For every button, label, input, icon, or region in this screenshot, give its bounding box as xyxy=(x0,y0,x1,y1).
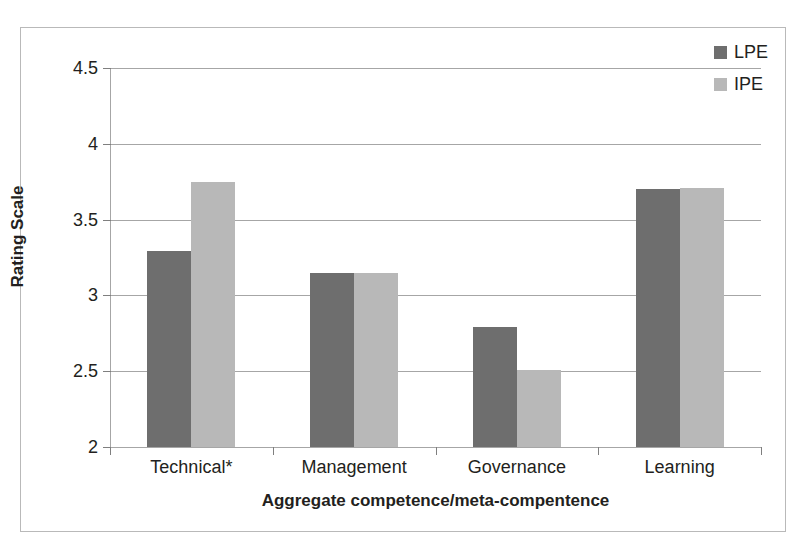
x-tick-label-technical: Technical* xyxy=(110,458,273,476)
bar-ipe-technical xyxy=(191,182,235,447)
x-axis-separator-3 xyxy=(598,447,599,455)
legend-item-lpe[interactable]: LPE xyxy=(714,40,784,72)
bar-ipe-governance xyxy=(517,370,561,447)
x-tick-label-learning: Learning xyxy=(598,458,761,476)
y-axis-title: Rating Scale xyxy=(9,157,26,317)
y-tick-label-4.5: 4.5 xyxy=(28,59,98,77)
y-tick-label-4: 4 xyxy=(28,135,98,153)
bar-ipe-management xyxy=(354,273,398,447)
y-tick-mark-4.5 xyxy=(103,68,111,69)
y-axis-tick-labels: 4.5 4 3.5 3 2.5 2 xyxy=(22,0,98,547)
y-tick-mark-2.5 xyxy=(103,371,111,372)
bar-ipe-learning xyxy=(680,188,724,447)
y-tick-mark-3.5 xyxy=(103,220,111,221)
legend-label-lpe: LPE xyxy=(734,40,768,65)
bar-lpe-governance xyxy=(473,327,517,447)
y-tick-label-2: 2 xyxy=(28,438,98,456)
legend-item-ipe[interactable]: IPE xyxy=(714,72,784,104)
x-axis-separator-4 xyxy=(761,447,762,455)
y-tick-label-3: 3 xyxy=(28,286,98,304)
y-tick-label-2.5: 2.5 xyxy=(28,362,98,380)
bar-lpe-management xyxy=(310,273,354,447)
y-tick-mark-3 xyxy=(103,295,111,296)
legend-swatch-lpe xyxy=(714,46,727,59)
x-axis-separator-2 xyxy=(436,447,437,455)
x-tick-label-governance: Governance xyxy=(436,458,599,476)
legend-swatch-ipe xyxy=(714,78,727,91)
x-axis-title: Aggregate competence/meta-compentence xyxy=(110,492,761,509)
gridline-4.5 xyxy=(110,68,761,69)
bar-lpe-learning xyxy=(636,189,680,447)
gridline-4 xyxy=(110,144,761,145)
bar-chart-figure: 4.5 4 3.5 3 2.5 2 Rating Scale Technical… xyxy=(0,0,800,547)
plot-area xyxy=(110,68,761,447)
chart-legend: LPEIPE xyxy=(714,40,784,104)
y-tick-mark-4 xyxy=(103,144,111,145)
x-tick-label-management: Management xyxy=(273,458,436,476)
bar-lpe-technical xyxy=(147,251,191,447)
y-tick-label-3.5: 3.5 xyxy=(28,211,98,229)
x-axis-separator-1 xyxy=(273,447,274,455)
y-tick-mark-2 xyxy=(103,447,111,448)
legend-label-ipe: IPE xyxy=(734,72,763,97)
x-axis-separator-0 xyxy=(110,447,111,455)
